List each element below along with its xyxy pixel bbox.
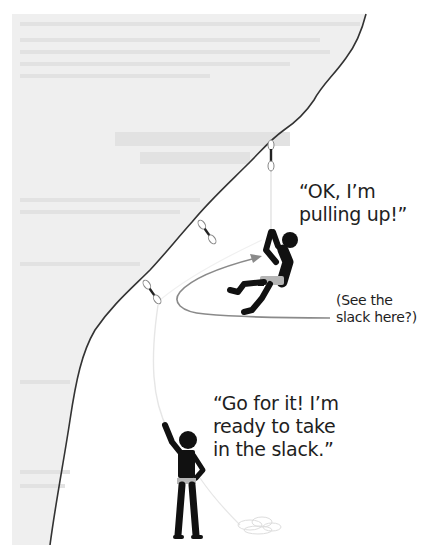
- rope: [160, 240, 262, 300]
- quickdraw-icon: [197, 219, 218, 245]
- slack-annotation: (See the slack here?): [336, 292, 417, 326]
- climbing-diagram: [0, 0, 425, 549]
- climber-speech: “OK, I’m pulling up!”: [299, 180, 407, 226]
- belayer-figure: [165, 425, 203, 537]
- belayer-speech: “Go for it! I’m ready to take in the sla…: [213, 392, 339, 460]
- rope: [153, 305, 168, 430]
- rope: [200, 478, 240, 525]
- quickdraw-icon: [268, 140, 274, 171]
- rope-pile: [238, 517, 281, 534]
- quickdraw-icon: [142, 279, 163, 305]
- arrowhead-icon: [250, 254, 262, 263]
- climber-figure: [230, 232, 298, 312]
